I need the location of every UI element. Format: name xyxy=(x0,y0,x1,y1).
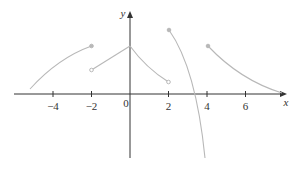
open-dot xyxy=(167,80,171,84)
curve-piece-2 xyxy=(92,46,131,70)
curve-piece-1 xyxy=(30,46,92,89)
x-tick-label: 2 xyxy=(166,100,172,112)
open-dot xyxy=(90,68,94,72)
closed-dot xyxy=(90,44,94,48)
curve-piece-5 xyxy=(208,46,282,93)
y-axis-label: y xyxy=(120,7,126,19)
x-tick-label: 6 xyxy=(243,100,249,112)
x-tick-label: −2 xyxy=(86,100,98,112)
origin-label: 0 xyxy=(123,97,129,109)
closed-dot xyxy=(206,44,210,48)
curve-piece-3 xyxy=(130,46,169,82)
x-axis-label: x xyxy=(283,96,289,108)
x-tick-label: 4 xyxy=(204,100,210,112)
y-axis-arrow-icon xyxy=(127,11,133,18)
function-graph: −4 −2 0 2 4 6 x y xyxy=(0,0,305,172)
x-tick-label: −4 xyxy=(47,100,59,112)
closed-dot xyxy=(167,28,171,32)
